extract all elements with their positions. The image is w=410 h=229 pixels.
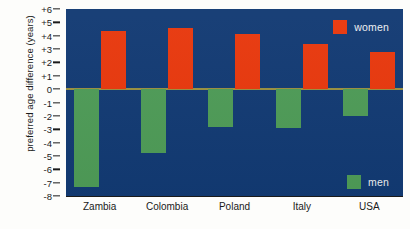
bar-men-zambia [74, 89, 99, 187]
bar-group [66, 9, 133, 196]
legend-label-women: women [354, 21, 389, 33]
y-tick-label: +1 [41, 70, 52, 81]
y-tick-label: -7 [44, 177, 52, 188]
y-tick-label: -5 [44, 150, 52, 161]
y-tick-label: -3 [44, 124, 52, 135]
y-tick-label: -6 [44, 164, 52, 175]
legend-item-women: women [333, 20, 389, 34]
bar-women-poland [235, 34, 260, 89]
bar-men-italy [276, 89, 301, 128]
y-tick-label: +3 [41, 44, 52, 55]
legend-swatch-women [333, 20, 347, 34]
y-tick-mark [53, 115, 60, 116]
x-tick-label: Zambia [83, 201, 116, 212]
y-tick-mark [53, 48, 60, 49]
y-tick-label: -1 [44, 97, 52, 108]
y-axis-ticks: +6+5+4+3+2+10-1-2-3-4-5-6-7-8 [24, 0, 60, 229]
y-tick-mark [53, 88, 60, 89]
y-tick-label: +6 [41, 4, 52, 15]
y-tick-mark [53, 155, 60, 156]
x-axis-line [66, 196, 403, 197]
bar-group [336, 9, 403, 196]
y-tick-label: -2 [44, 110, 52, 121]
bar-group [268, 9, 335, 196]
plot-area: women men [66, 9, 403, 196]
bar-group [133, 9, 200, 196]
x-tick-label: Italy [293, 201, 311, 212]
y-tick-mark [53, 129, 60, 130]
bar-women-colombia [168, 28, 193, 89]
y-tick-label: +2 [41, 57, 52, 68]
y-tick-mark [53, 22, 60, 23]
bar-women-usa [370, 52, 395, 89]
bar-men-usa [343, 89, 368, 116]
legend-swatch-men [347, 175, 361, 189]
bar-group [201, 9, 268, 196]
y-tick-label: -8 [44, 191, 52, 202]
y-tick-label: +4 [41, 30, 52, 41]
bar-women-italy [303, 44, 328, 89]
x-tick-label: Colombia [146, 201, 188, 212]
chart-figure: preferred age difference (years) +6+5+4+… [0, 0, 410, 229]
y-tick-label: -4 [44, 137, 52, 148]
y-tick-mark [53, 75, 60, 76]
y-tick-mark [53, 182, 60, 183]
x-axis-labels: ZambiaColombiaPolandItalyUSA [66, 199, 403, 219]
legend-item-men: men [347, 175, 389, 189]
y-tick-mark [53, 102, 60, 103]
y-tick-label: +5 [41, 17, 52, 28]
bar-men-colombia [141, 89, 166, 153]
x-tick-label: Poland [219, 201, 250, 212]
y-tick-label: 0 [47, 84, 52, 95]
y-tick-mark [53, 142, 60, 143]
y-tick-mark [53, 35, 60, 36]
bar-women-zambia [101, 31, 126, 89]
y-tick-mark [53, 169, 60, 170]
y-tick-mark [53, 195, 60, 196]
legend-label-men: men [368, 176, 389, 188]
x-tick-label: USA [359, 201, 380, 212]
y-tick-mark [53, 62, 60, 63]
bar-men-poland [208, 89, 233, 126]
y-tick-mark [53, 8, 60, 9]
